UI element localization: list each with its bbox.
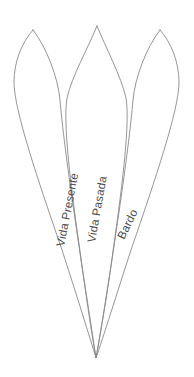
petal-diagram: Vida Presente Vida Pasada Bardo: [0, 0, 194, 377]
diagram-canvas: Vida Presente Vida Pasada Bardo: [0, 0, 194, 377]
